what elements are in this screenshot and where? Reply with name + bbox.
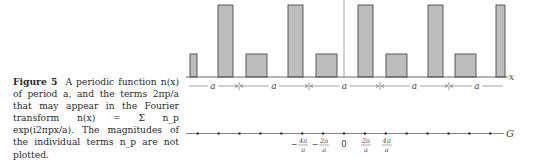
fraction-numerator: 2π	[361, 137, 371, 145]
lattice-point	[322, 132, 324, 134]
lattice-point	[343, 132, 345, 134]
bar-short	[190, 54, 197, 77]
fraction-numerator: 2π	[319, 137, 329, 145]
lattice-point	[385, 132, 387, 134]
x-axis-label: x	[509, 72, 514, 82]
period-label: a	[412, 81, 417, 91]
fraction-numerator: 4π	[382, 137, 392, 145]
tick-label-fraction: 4πa	[382, 137, 392, 154]
lattice-point	[468, 132, 470, 134]
lattice-point	[197, 132, 199, 134]
fraction-denominator: a	[385, 146, 389, 154]
bar-tall	[288, 5, 303, 77]
minus-sign: −	[312, 140, 319, 149]
lattice-point	[426, 132, 428, 134]
bar-short	[455, 54, 476, 77]
periodic-function-bars	[190, 5, 505, 77]
lattice-point	[364, 132, 366, 134]
period-label: a	[474, 81, 479, 91]
tick-label-zero: 0	[341, 139, 346, 149]
fraction-denominator: a	[322, 146, 326, 154]
fraction-numerator: 4π	[298, 137, 308, 145]
figure-diagram: x aaaaa G −4πa−2πa02πa4πa	[0, 0, 537, 166]
minus-sign: −	[291, 140, 298, 149]
period-dimension-markers: aaaaa	[189, 81, 503, 91]
tick-label-fraction: −4πa	[291, 137, 308, 154]
tick-label-fraction: −2πa	[312, 137, 329, 154]
lattice-point	[238, 132, 240, 134]
fraction-denominator: a	[301, 146, 305, 154]
bar-short	[386, 54, 407, 77]
lattice-point	[280, 132, 282, 134]
g-axis-tick-labels: −4πa−2πa02πa4πa	[291, 137, 392, 154]
lattice-point	[447, 132, 449, 134]
lattice-point	[259, 132, 261, 134]
bar-short	[316, 54, 337, 77]
bar-tall	[428, 5, 443, 77]
fraction-denominator: a	[364, 146, 368, 154]
lattice-point	[301, 132, 303, 134]
lattice-point	[217, 132, 219, 134]
period-label: a	[271, 81, 276, 91]
lattice-point	[489, 132, 491, 134]
bar-tall	[358, 5, 373, 77]
lattice-point	[406, 132, 408, 134]
bar-tall	[218, 5, 233, 77]
bar-short	[246, 54, 267, 77]
period-label: a	[210, 81, 215, 91]
period-label: a	[342, 81, 347, 91]
tick-label-fraction: 2πa	[361, 137, 371, 154]
g-axis-label: G	[506, 128, 514, 139]
bar-tall	[496, 5, 505, 77]
